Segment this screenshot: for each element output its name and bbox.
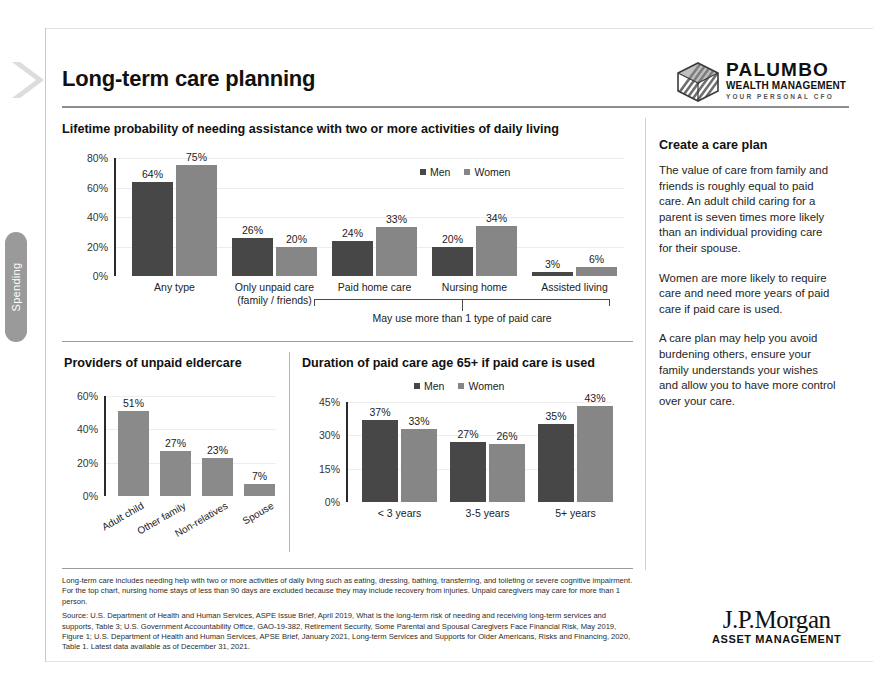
- chart3-ytick: 0%: [325, 496, 340, 508]
- bar-value-label: 33%: [386, 213, 407, 225]
- care-plan-paragraph-1: The value of care from family and friend…: [659, 163, 837, 257]
- spending-tab-label: Spending: [5, 232, 27, 342]
- sidebar-divider: [645, 118, 646, 570]
- legend-swatch-women: [458, 383, 464, 389]
- legend-label-men: Men: [430, 166, 450, 178]
- bracket-left-tick: [314, 299, 315, 306]
- bracket-caption: May use more than 1 type of paid care: [314, 312, 610, 324]
- logo-subtagline: YOUR PERSONAL CFO: [726, 92, 854, 102]
- legend-label-women: Women: [468, 380, 504, 392]
- bar-value-label: 26%: [496, 430, 517, 442]
- chart3-ytick: 45%: [319, 396, 340, 408]
- bar-men: 26%: [232, 238, 273, 276]
- chart3-ytick: 15%: [319, 463, 340, 475]
- chart1-y-axis: [114, 158, 116, 276]
- bar-men: 3%: [532, 272, 573, 276]
- chart1-ytick: 0%: [93, 270, 108, 282]
- bar-other-family: 27%: [160, 451, 191, 496]
- bar-value-label: 51%: [123, 397, 144, 409]
- bar-value-label: 37%: [369, 406, 390, 418]
- logo-name: PALUMBO: [726, 60, 854, 80]
- chart1-title: Lifetime probability of needing assistan…: [62, 122, 559, 136]
- bar-value-label: 27%: [457, 428, 478, 440]
- bar-men: 24%: [332, 241, 373, 276]
- logo-tagline: WEALTH MANAGEMENT: [726, 80, 854, 92]
- chart2-y-axis: [104, 396, 106, 496]
- chart3-title: Duration of paid care age 65+ if paid ca…: [302, 356, 595, 370]
- chart-lifetime-probability: 0% 20% 40% 60% 80% 64% 75% Any type 26% …: [62, 148, 633, 308]
- chart3-y-axis: [346, 402, 348, 502]
- care-plan-heading: Create a care plan: [659, 138, 837, 152]
- paid-care-bracket: May use more than 1 type of paid care: [314, 299, 610, 329]
- bar-women: 33%: [376, 227, 417, 276]
- chart2-plot-area: 0% 20% 40% 60% 51% 27% 23% 7% Adult chil…: [104, 396, 276, 496]
- chart1-xtick: Nursing home: [422, 281, 527, 294]
- care-plan-panel: Create a care plan The value of care fro…: [659, 138, 837, 423]
- chart1-xtick: Any type: [122, 281, 227, 294]
- bar-value-label: 33%: [408, 415, 429, 427]
- chart1-ytick: 40%: [87, 211, 108, 223]
- bar-value-label: 35%: [545, 410, 566, 422]
- chart3-xtick: < 3 years: [356, 507, 443, 520]
- chart2-ytick: 0%: [83, 490, 98, 502]
- chart1-xtick: Assisted living: [522, 281, 627, 294]
- care-plan-paragraph-2: Women are more likely to require care an…: [659, 271, 837, 318]
- bar-women: 26%: [489, 444, 525, 502]
- chart-providers-unpaid-eldercare: 0% 20% 40% 60% 51% 27% 23% 7% Adult chil…: [64, 382, 286, 552]
- chart2-ytick: 20%: [77, 457, 98, 469]
- section-divider-middle: [62, 341, 633, 342]
- care-plan-paragraph-3: A care plan may help you avoid burdening…: [659, 331, 837, 409]
- chart3-ytick: 30%: [319, 429, 340, 441]
- footnote-divider: [62, 568, 633, 569]
- sidebar-item-spending[interactable]: Spending: [5, 232, 27, 342]
- legend-swatch-men: [414, 383, 420, 389]
- chevron-right-icon[interactable]: [6, 58, 46, 102]
- bar-value-label: 6%: [589, 253, 604, 265]
- page-title: Long-term care planning: [62, 66, 315, 92]
- bar-women: 34%: [476, 226, 517, 276]
- chart3-legend: Men Women: [414, 380, 504, 392]
- bar-value-label: 27%: [165, 437, 186, 449]
- bar-value-label: 34%: [486, 212, 507, 224]
- header-divider: [62, 106, 849, 108]
- legend-label-women: Women: [474, 166, 510, 178]
- chart3-xtick: 3-5 years: [444, 507, 531, 520]
- bar-value-label: 3%: [545, 258, 560, 270]
- bar-value-label: 20%: [286, 233, 307, 245]
- chart2-ytick: 40%: [77, 423, 98, 435]
- bar-men: 35%: [538, 424, 574, 502]
- bar-value-label: 75%: [186, 151, 207, 163]
- legend-label-men: Men: [424, 380, 444, 392]
- bar-value-label: 20%: [442, 233, 463, 245]
- bar-women: 33%: [401, 429, 437, 502]
- bar-spouse: 7%: [244, 484, 275, 496]
- chart3-plot-area: 0% 15% 30% 45% 37% 33% < 3 years 27% 26%…: [346, 402, 612, 502]
- chart1-plot-area: 0% 20% 40% 60% 80% 64% 75% Any type 26% …: [114, 158, 624, 276]
- palumbo-logo: PALUMBO WEALTH MANAGEMENT YOUR PERSONAL …: [676, 60, 851, 104]
- footnote-source: Source: U.S. Department of Health and Hu…: [62, 611, 637, 653]
- bar-men: 64%: [132, 182, 173, 276]
- bar-adult-child: 51%: [118, 411, 149, 496]
- chart1-ytick: 60%: [87, 182, 108, 194]
- bar-men: 27%: [450, 442, 486, 502]
- hexagon-stripes-icon: [676, 62, 720, 102]
- footnotes: Long-term care includes needing help wit…: [62, 576, 637, 653]
- legend-swatch-women: [464, 169, 470, 175]
- legend-swatch-men: [420, 169, 426, 175]
- bottom-charts-divider: [289, 352, 290, 552]
- chart2-ytick: 60%: [77, 390, 98, 402]
- legend-item-women: Women: [464, 166, 510, 178]
- bar-value-label: 26%: [242, 224, 263, 236]
- bar-women: 75%: [176, 165, 217, 276]
- bar-non-relatives: 23%: [202, 458, 233, 496]
- jpmorgan-subtitle: ASSET MANAGEMENT: [712, 633, 841, 646]
- legend-item-men: Men: [420, 166, 450, 178]
- bar-value-label: 24%: [342, 227, 363, 239]
- bar-value-label: 23%: [207, 444, 228, 456]
- chart1-ytick: 80%: [87, 152, 108, 164]
- footnote-note: Long-term care includes needing help wit…: [62, 576, 637, 607]
- bar-value-label: 43%: [584, 392, 605, 404]
- chart1-ytick: 20%: [87, 241, 108, 253]
- legend-item-men: Men: [414, 380, 444, 392]
- bar-women: 43%: [577, 406, 613, 502]
